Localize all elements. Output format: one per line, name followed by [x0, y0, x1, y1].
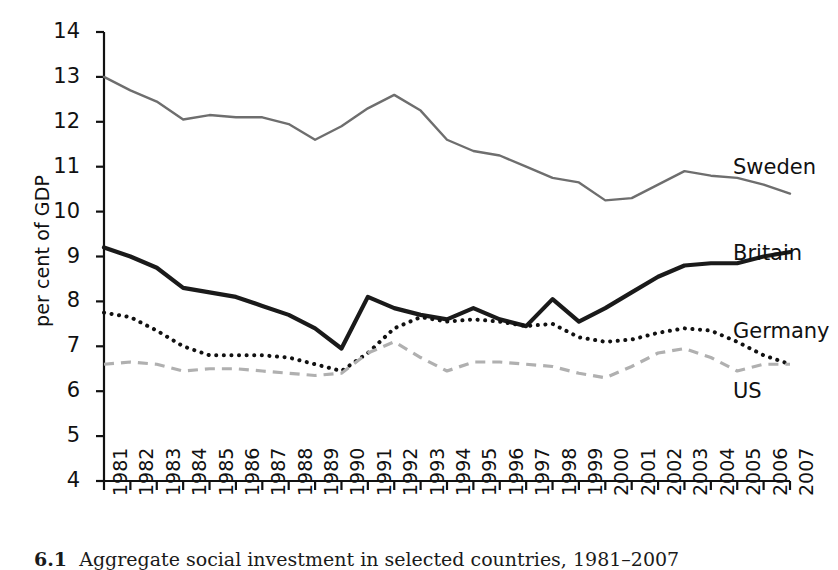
series-label-britain: Britain [733, 243, 802, 264]
series-line-us [104, 342, 790, 378]
series-line-britain [104, 248, 790, 349]
caption-number: 6.1 [34, 548, 67, 570]
caption-text: Aggregate social investment in selected … [79, 548, 679, 570]
series-label-us: US [733, 381, 762, 402]
series-line-sweden [104, 77, 790, 200]
axis-lines [96, 32, 790, 490]
data-series-layer [104, 77, 790, 378]
series-line-germany [104, 313, 790, 371]
series-label-germany: Germany [733, 321, 830, 342]
figure-caption: 6.1 Aggregate social investment in selec… [34, 548, 679, 570]
series-label-sweden: Sweden [733, 157, 816, 178]
